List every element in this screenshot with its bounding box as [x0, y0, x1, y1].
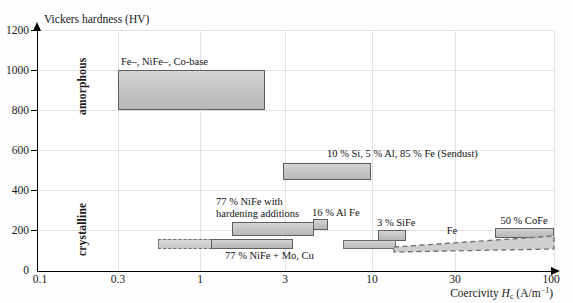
y-tick-800	[31, 110, 38, 111]
x-axis-line	[37, 271, 553, 272]
x-tick-label-3: 3	[282, 273, 288, 285]
y-tick-label-600: 600	[0, 144, 29, 156]
gridline-y-400	[38, 190, 555, 191]
annot-nife-hardening-additions: 77 % NiFe with hardening additions	[216, 196, 299, 220]
x-tick-label-0.3: 0.3	[111, 273, 125, 285]
y-tick-1200	[31, 30, 38, 31]
chart-figure: 1200 1000 800 600 400 200 0 0.1 0.3 1 3 …	[0, 0, 573, 303]
x-tick-label-1: 1	[197, 273, 203, 285]
x-tick-label-100: 100	[542, 273, 559, 285]
x-axis-title-symbol: H	[502, 287, 510, 299]
y-tick-label-800: 800	[0, 104, 29, 116]
x-tick-label-0.1: 0.1	[33, 273, 47, 285]
box-nife-mo-cu-solid	[211, 239, 293, 249]
box-sendust	[283, 163, 371, 180]
y-tick-1000	[31, 70, 38, 71]
y-tick-label-1000: 1000	[0, 64, 29, 76]
annot-fe-nife-co-base: Fe–, NiFe–, Co-base	[121, 56, 208, 68]
x-axis-title-units-exponent: −1	[541, 286, 550, 295]
box-nife-mo-cu-dashed	[158, 239, 212, 249]
y-tick-label-1200: 1200	[0, 24, 29, 36]
box-nife-hardening-additions	[232, 222, 314, 236]
region-label-crystalline: crystalline	[76, 203, 88, 256]
box-fe-nife-co-base	[118, 70, 265, 110]
box-fe-wedge	[392, 232, 557, 254]
region-label-amorphous: amorphous	[76, 58, 88, 115]
y-tick-label-0: 0	[0, 264, 29, 276]
y-axis-title: Vickers hardness (HV)	[44, 13, 149, 25]
x-axis-title-prefix: Coercivity	[450, 287, 501, 299]
annot-co-fe-50: 50 % CoFe	[524, 215, 571, 227]
y-tick-600	[31, 150, 38, 151]
y-tick-200	[31, 230, 38, 231]
annot-nife-hardening-line2: hardening additions	[216, 208, 299, 219]
gridline-y-1000	[38, 70, 555, 71]
gridline-y-800	[38, 110, 555, 111]
x-axis-title-units-open: (A/m	[513, 287, 540, 299]
x-axis-title-units-close: )	[549, 287, 553, 299]
annot-nife-mo-cu: 77 % NiFe + Mo, Cu	[225, 250, 314, 262]
annot-fe-text: Fe	[447, 225, 458, 237]
x-axis-title: Coercivity Hc (A/m−1)	[450, 286, 553, 301]
y-tick-label-200: 200	[0, 224, 29, 236]
gridline-x-0.3	[118, 30, 119, 271]
annot-co-fe-50-text: 50 % CoFe	[500, 215, 547, 227]
y-tick-400	[31, 190, 38, 191]
box-al-fe-16	[313, 219, 328, 230]
annot-al-fe-16: 16 % Al Fe	[312, 207, 360, 219]
annot-fe: Fe	[452, 225, 463, 237]
box-fe-low	[343, 240, 396, 249]
annot-nife-hardening-line1: 77 % NiFe with	[216, 196, 283, 207]
annot-sendust: 10 % Si, 5 % Al, 85 % Fe (Sendust)	[327, 148, 478, 160]
annot-si-fe-3: 3 % SiFe	[377, 217, 416, 229]
y-tick-label-400: 400	[0, 184, 29, 196]
x-tick-label-30: 30	[449, 273, 461, 285]
gridline-y-1200	[38, 30, 555, 31]
x-tick-label-10: 10	[366, 273, 378, 285]
